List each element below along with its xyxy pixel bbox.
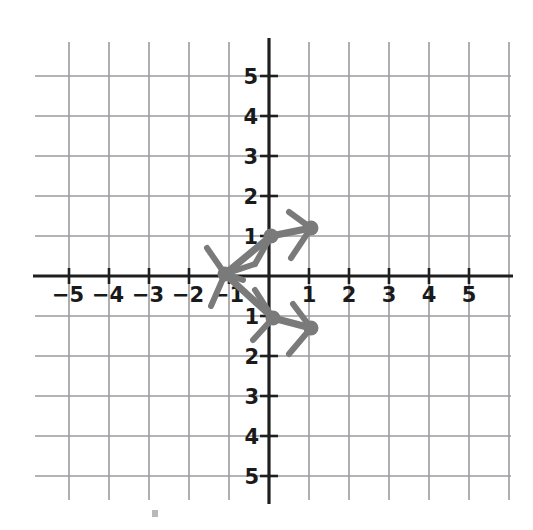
x-axis-tick-label: 3: [382, 283, 397, 307]
x-axis-tick-label: 4: [422, 283, 437, 307]
y-axis-tick-label: 5: [243, 65, 258, 89]
y-axis-tick-label: 5: [244, 465, 259, 489]
y-axis-tick-label: 1: [244, 305, 259, 329]
y-axis-tick-label: 2: [243, 185, 258, 209]
x-axis-tick-label: −4: [92, 283, 124, 307]
x-axis-tick-label: −2: [172, 283, 204, 307]
grid-lines: [35, 42, 511, 500]
y-axis-tick-label: 4: [243, 105, 258, 129]
paper-speck: [152, 510, 158, 517]
vertex-node: [266, 311, 281, 326]
y-axis-tick-label: 2: [244, 345, 259, 369]
x-axis-tick-label: −5: [52, 283, 84, 307]
axes: [33, 38, 513, 504]
y-axis-tick-label: 4: [244, 425, 259, 449]
x-axis-tick-label: 1: [302, 283, 317, 307]
graph-paper-figure: −5−4−3−2−1123455432112345: [0, 0, 533, 530]
vertex-node: [304, 221, 319, 236]
vertex-node: [218, 267, 233, 282]
x-axis-tick-label: 5: [462, 283, 477, 307]
vertex-node: [264, 229, 279, 244]
coordinate-plane: −5−4−3−2−1123455432112345: [0, 0, 533, 530]
vertex-node: [304, 321, 319, 336]
x-axis-tick-label: −3: [132, 283, 164, 307]
y-axis-tick-label: 3: [244, 385, 259, 409]
y-axis-tick-label: 3: [243, 145, 258, 169]
x-axis-tick-label: 2: [342, 283, 357, 307]
